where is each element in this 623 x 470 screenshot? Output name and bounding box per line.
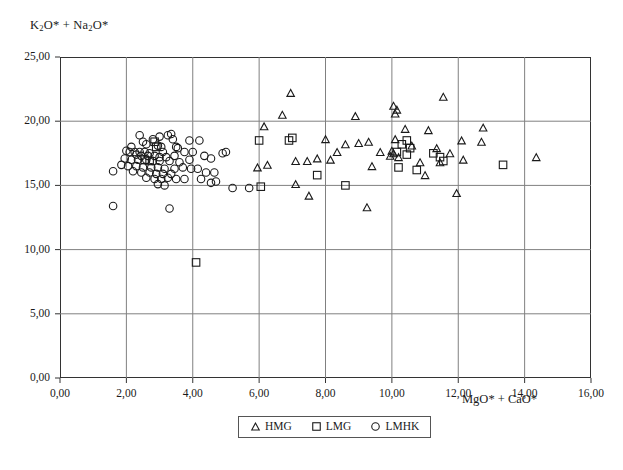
legend-entry-hmg: HMG bbox=[250, 420, 292, 433]
y-axis-title: K2O* + Na2O* bbox=[30, 18, 108, 33]
y-axis-title-sub-1: 2 bbox=[39, 23, 43, 33]
x-tick-label: 8,00 bbox=[296, 388, 356, 400]
x-tick-label: 0,00 bbox=[30, 388, 90, 400]
legend-label: LMHK bbox=[385, 420, 419, 433]
x-tick-label: 6,00 bbox=[229, 388, 289, 400]
y-tick-label: 5,00 bbox=[2, 308, 50, 320]
x-tick-label: 16,00 bbox=[561, 388, 621, 400]
triangle-marker-icon bbox=[250, 421, 261, 432]
x-tick-label: 4,00 bbox=[163, 388, 223, 400]
x-tick-label: 2,00 bbox=[96, 388, 156, 400]
y-axis-title-sub-2: 2 bbox=[88, 23, 92, 33]
y-tick-label: 15,00 bbox=[2, 179, 50, 191]
y-tick-label: 10,00 bbox=[2, 244, 50, 256]
y-tick-label: 0,00 bbox=[2, 372, 50, 384]
circle-marker-icon bbox=[370, 421, 381, 432]
x-tick-label: 10,00 bbox=[362, 388, 422, 400]
square-marker-icon bbox=[311, 421, 322, 432]
legend-entry-lmhk: LMHK bbox=[370, 420, 419, 433]
legend-label: HMG bbox=[265, 420, 292, 433]
scatter-chart: K2O* + Na2O* 0,005,0010,0015,0020,0025,0… bbox=[0, 0, 623, 470]
x-axis-title: MgO* + CaO* bbox=[462, 392, 537, 407]
chart-legend: HMGLMGLMHK bbox=[238, 416, 431, 438]
legend-label: LMG bbox=[326, 420, 352, 433]
y-tick-label: 20,00 bbox=[2, 115, 50, 127]
plot-area bbox=[60, 57, 591, 378]
y-tick-label: 25,00 bbox=[2, 51, 50, 63]
legend-entry-lmg: LMG bbox=[311, 420, 352, 433]
